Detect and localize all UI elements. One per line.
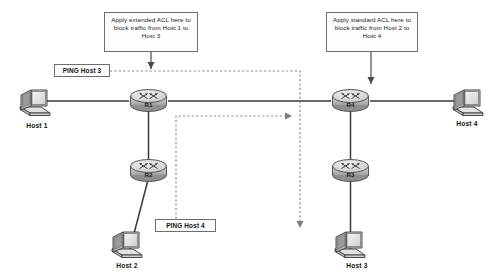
flow-ping-host-4 — [176, 116, 292, 219]
label-ping-host-3: PING Host 3 — [54, 64, 110, 77]
host-host4[interactable] — [453, 90, 483, 116]
router-r3[interactable]: R3 — [333, 160, 369, 182]
router-r4[interactable]: R4 — [333, 90, 369, 112]
host-host1-label: Host 1 — [10, 122, 64, 129]
router-r3-label: R3 — [347, 171, 355, 178]
router-r1[interactable]: R1 — [131, 90, 167, 112]
callout-apply-standard-acl: Apply standard ACL here to block traffic… — [326, 12, 418, 52]
callout-apply-extended-acl: Apply extended ACL here to block traffic… — [104, 12, 198, 52]
router-r2-label: R2 — [145, 171, 153, 178]
host-host3[interactable] — [335, 232, 365, 258]
host-host2-label: Host 2 — [100, 262, 154, 269]
router-r2[interactable]: R2 — [131, 160, 167, 182]
host-host1[interactable] — [20, 90, 50, 116]
host-host2[interactable] — [112, 232, 142, 258]
router-r4-label: R4 — [347, 101, 355, 108]
label-ping-host-4: PING Host 4 — [155, 219, 216, 232]
host-host3-label: Host 3 — [330, 262, 384, 269]
router-r1-label: R1 — [145, 101, 153, 108]
network-diagram-canvas: R1 R2 R3 R4 — [0, 0, 500, 280]
host-host4-label: Host 4 — [440, 120, 494, 127]
